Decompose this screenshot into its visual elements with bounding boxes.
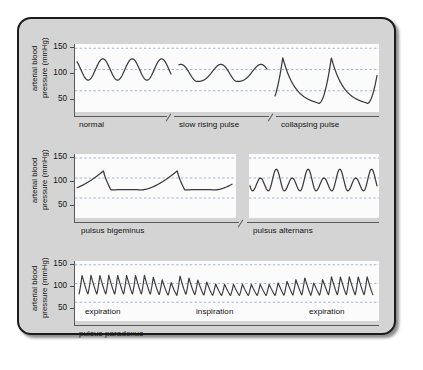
y-tick-150: 150 (50, 259, 67, 268)
y-tick-100: 100 (50, 68, 67, 77)
panel-3: arterial blood pressure (mmHg) 150 100 5… (19, 239, 398, 337)
figure-frame: arterial blood pressure (mmHg) 150 100 5… (17, 17, 396, 335)
y-tick-50: 50 (50, 94, 67, 103)
y-axis-label: arterial blood pressure (mmHg) (30, 247, 50, 329)
segment-label-expiration-1: expiration (85, 307, 121, 316)
y-axis-label: arterial blood pressure (mmHg) (30, 139, 50, 221)
panel-1: arterial blood pressure (mmHg) 150 100 5… (19, 19, 398, 131)
panel-2-plot-area-left (75, 154, 236, 218)
panel-3-caption: pulsus paradoxus (79, 329, 143, 338)
segment-label-collapsing-pulse: collapsing pulse (281, 120, 339, 129)
axis-break-2 (239, 222, 247, 223)
panel-1-traces (75, 44, 379, 112)
panel-2: arterial blood pressure (mmHg) 150 100 5… (19, 131, 398, 239)
panel-2-x-axis-left (74, 222, 239, 223)
y-tick-100: 100 (50, 176, 67, 185)
segment-label-inspiration: inspiration (196, 307, 233, 316)
panel-2-plot-area-right (249, 154, 379, 218)
segment-label-pulsus-alternans: pulsus alternans (253, 226, 313, 235)
panel-1-plot-area (75, 44, 379, 112)
panel-1-x-axis (74, 116, 379, 117)
y-tick-100: 100 (50, 281, 67, 290)
y-tick-50: 50 (50, 200, 67, 209)
y-tick-150: 150 (50, 152, 67, 161)
segment-label-expiration-2: expiration (309, 307, 345, 316)
panel-2-x-axis-right (247, 222, 379, 223)
panel-2-trace-bigeminus (75, 154, 236, 218)
y-axis-label: arterial blood pressure (mmHg) (30, 27, 50, 109)
panel-3-x-axis (74, 325, 379, 326)
y-tick-150: 150 (50, 42, 67, 51)
panel-2-trace-alternans (249, 154, 379, 218)
segment-label-normal: normal (79, 120, 104, 129)
axis-break-1b (269, 116, 276, 117)
segment-label-slow-rising-pulse: slow rising pulse (179, 120, 239, 129)
axis-break-1a (167, 116, 174, 117)
y-tick-50: 50 (50, 303, 67, 312)
panel-2-gap-divider (236, 154, 249, 218)
segment-label-pulsus-bigeminus: pulsus bigeminus (81, 226, 144, 235)
